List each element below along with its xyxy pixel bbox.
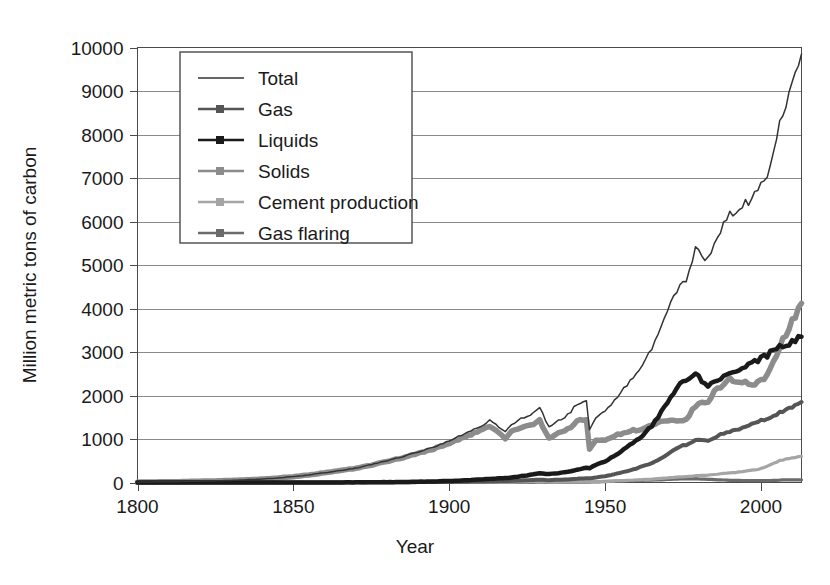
- x-axis-title: Year: [396, 536, 435, 557]
- y-tick-label-7000: 7000: [81, 168, 123, 189]
- emissions-line-chart: 0100020003000400050006000700080009000100…: [0, 0, 830, 585]
- legend-label-gas: Gas: [258, 99, 293, 120]
- y-tick-label-2000: 2000: [81, 386, 123, 407]
- series-line-solids: [138, 303, 802, 482]
- legend-swatch-marker-gas-flaring: [216, 229, 224, 237]
- legend-swatch-marker-solids: [216, 167, 224, 175]
- x-tick-label-1900: 1900: [428, 496, 470, 517]
- y-tick-marks: [130, 49, 138, 484]
- y-tick-label-3000: 3000: [81, 342, 123, 363]
- legend-label-gas-flaring: Gas flaring: [258, 223, 350, 244]
- y-axis-title: Million metric tons of carbon: [19, 147, 40, 384]
- y-tick-label-0: 0: [113, 473, 124, 494]
- legend-label-solids: Solids: [258, 161, 310, 182]
- y-tick-label-1000: 1000: [81, 429, 123, 450]
- x-tick-label-2000: 2000: [740, 496, 782, 517]
- y-tick-label-4000: 4000: [81, 299, 123, 320]
- legend-label-total: Total: [258, 68, 298, 89]
- legend-label-liquids: Liquids: [258, 130, 318, 151]
- legend-swatch-marker-cement-production: [216, 198, 224, 206]
- legend: TotalGasLiquidsSolidsCement productionGa…: [180, 52, 419, 244]
- legend-swatch-marker-liquids: [216, 136, 224, 144]
- legend-label-cement-production: Cement production: [258, 192, 419, 213]
- x-tick-label-1950: 1950: [584, 496, 626, 517]
- x-tick-label-1800: 1800: [116, 496, 158, 517]
- y-tick-label-5000: 5000: [81, 255, 123, 276]
- y-tick-label-9000: 9000: [81, 81, 123, 102]
- y-tick-label-8000: 8000: [81, 125, 123, 146]
- x-tick-label-1850: 1850: [272, 496, 314, 517]
- x-tick-labels: 18001850190019502000: [116, 496, 782, 517]
- series-line-gas: [138, 402, 802, 482]
- y-tick-labels: 0100020003000400050006000700080009000100…: [71, 38, 124, 494]
- series-line-liquids: [138, 336, 802, 482]
- y-tick-label-10000: 10000: [71, 38, 124, 59]
- y-tick-label-6000: 6000: [81, 212, 123, 233]
- legend-swatch-marker-gas: [216, 105, 224, 113]
- chart-container: 0100020003000400050006000700080009000100…: [0, 0, 830, 585]
